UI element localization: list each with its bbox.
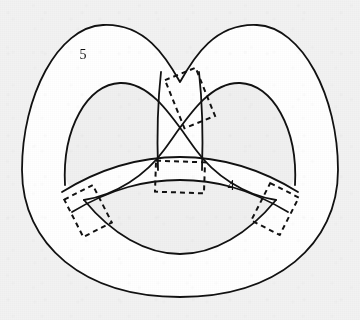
- band-label-5: 5: [80, 47, 87, 62]
- figure-root: 5 4: [0, 0, 360, 320]
- knot-surface-diagram: 5 4: [0, 0, 360, 320]
- band-label-4: 4: [228, 178, 235, 193]
